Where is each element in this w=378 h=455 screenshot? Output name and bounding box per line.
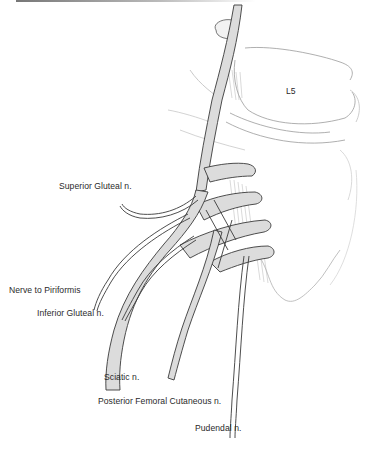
label-inferior-gluteal-nerve: Inferior Gluteal n. — [37, 308, 104, 318]
sacral-plexus-illustration — [0, 0, 378, 455]
label-l5: L5 — [286, 86, 296, 96]
nerve-trunks — [106, 5, 274, 390]
label-pudendal-nerve: Pudendal n. — [195, 423, 241, 433]
l5-vertebra-sketch — [168, 47, 359, 301]
label-posterior-femoral-cutaneous-nerve: Posterior Femoral Cutaneous n. — [98, 396, 221, 406]
label-superior-gluteal-nerve: Superior Gluteal n. — [59, 181, 132, 191]
label-nerve-to-piriformis: Nerve to Piriformis — [9, 285, 81, 295]
label-sciatic-nerve: Sciatic n. — [104, 372, 139, 382]
